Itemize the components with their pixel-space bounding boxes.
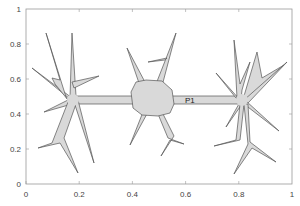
annotation-p1: P1 — [185, 96, 195, 105]
x-tick-4: 0.8 — [233, 190, 245, 199]
y-tick-labels: 0 0.2 0.4 0.6 0.8 1 — [10, 5, 22, 189]
y-tick-3: 0.6 — [10, 75, 22, 84]
x-tick-0: 0 — [24, 190, 29, 199]
x-tick-1: 0.2 — [74, 190, 86, 199]
x-tick-labels: 0 0.2 0.4 0.6 0.8 1 — [24, 190, 295, 199]
x-tick-3: 0.6 — [180, 190, 192, 199]
y-tick-0: 0 — [17, 180, 22, 189]
y-tick-4: 0.8 — [10, 40, 22, 49]
y-tick-2: 0.4 — [10, 110, 22, 119]
y-tick-1: 0.2 — [10, 145, 22, 154]
x-tick-5: 1 — [290, 190, 295, 199]
x-tick-2: 0.4 — [127, 190, 139, 199]
figure: 0 0.2 0.4 0.6 0.8 1 0 0.2 0.4 0.6 0.8 1 — [0, 0, 300, 206]
y-tick-5: 1 — [17, 5, 22, 14]
